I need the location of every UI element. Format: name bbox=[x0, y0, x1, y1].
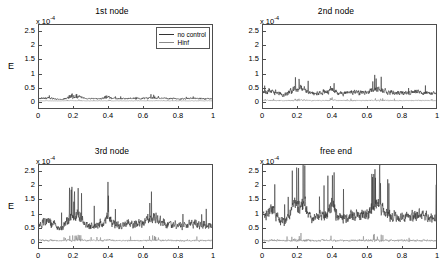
x-tick-mark bbox=[38, 246, 39, 249]
x-tick-label: 0.8 bbox=[167, 112, 189, 120]
x-tick-label: 0.6 bbox=[132, 252, 154, 260]
y-tick-label: 0.5 bbox=[234, 224, 259, 232]
x-tick-label: 0.4 bbox=[321, 252, 343, 260]
series-hinf bbox=[263, 97, 436, 101]
series-no-control bbox=[39, 93, 212, 99]
y-tick-mark bbox=[263, 214, 266, 215]
plot-area bbox=[262, 24, 437, 109]
y-tick-label: 1.5 bbox=[234, 195, 259, 203]
x-tick-mark bbox=[143, 246, 144, 249]
y-tick-mark bbox=[39, 171, 42, 172]
x-tick-mark bbox=[367, 246, 368, 249]
x-tick-label: 0 bbox=[251, 252, 273, 260]
panel-title: 2nd node bbox=[224, 6, 448, 16]
y-tick-label: 2 bbox=[234, 41, 259, 49]
x-tick-label: 0.8 bbox=[391, 112, 413, 120]
series-plot bbox=[263, 25, 436, 108]
series-hinf bbox=[39, 100, 212, 102]
y-tick-mark bbox=[39, 102, 42, 103]
y-tick-mark bbox=[263, 199, 266, 200]
legend-swatch-hinf bbox=[159, 42, 174, 43]
plot-area bbox=[38, 164, 213, 249]
series-no-control bbox=[39, 182, 212, 230]
y-tick-mark bbox=[39, 74, 42, 75]
y-tick-mark bbox=[39, 31, 42, 32]
x-tick-label: 0.2 bbox=[286, 112, 308, 120]
y-tick-label: 2.5 bbox=[234, 167, 259, 175]
y-tick-mark bbox=[39, 242, 42, 243]
y-tick-label: 1 bbox=[10, 70, 35, 78]
x-tick-mark bbox=[332, 246, 333, 249]
x-tick-mark bbox=[297, 106, 298, 109]
x-tick-mark bbox=[436, 246, 437, 249]
y-tick-mark bbox=[39, 45, 42, 46]
x-tick-label: 0.4 bbox=[97, 252, 119, 260]
y-tick-label: 1 bbox=[234, 70, 259, 78]
plot-area bbox=[262, 164, 437, 249]
x-tick-label: 1 bbox=[202, 252, 224, 260]
y-tick-mark bbox=[263, 171, 266, 172]
plot-area: no control Hinf bbox=[38, 24, 213, 109]
x-tick-mark bbox=[402, 106, 403, 109]
y-tick-label: 1 bbox=[10, 210, 35, 218]
x-tick-label: 0 bbox=[27, 112, 49, 120]
y-tick-label: 0.5 bbox=[10, 84, 35, 92]
series-hinf bbox=[39, 235, 212, 242]
legend: no control Hinf bbox=[156, 27, 210, 49]
x-tick-label: 0.4 bbox=[97, 112, 119, 120]
legend-item-hinf: Hinf bbox=[159, 38, 206, 46]
x-tick-label: 0.6 bbox=[132, 112, 154, 120]
x-tick-mark bbox=[108, 106, 109, 109]
y-tick-mark bbox=[263, 185, 266, 186]
panel-title: 3rd node bbox=[0, 146, 224, 156]
x-tick-label: 0.6 bbox=[356, 252, 378, 260]
x-tick-label: 1 bbox=[202, 112, 224, 120]
y-tick-label: 2 bbox=[10, 41, 35, 49]
legend-label-no-control: no control bbox=[177, 31, 206, 38]
series-plot bbox=[39, 165, 212, 248]
y-tick-label: 0.5 bbox=[234, 84, 259, 92]
y-tick-label: 2.5 bbox=[234, 27, 259, 35]
x-tick-label: 1 bbox=[426, 112, 448, 120]
panel-title: free end bbox=[224, 146, 448, 156]
y-tick-label: 0 bbox=[10, 98, 35, 106]
x-tick-mark bbox=[38, 106, 39, 109]
y-tick-mark bbox=[263, 242, 266, 243]
series-hinf bbox=[263, 233, 436, 242]
figure-canvas: 1st node x 10-4 E no control Hinf 2nd no… bbox=[0, 0, 448, 280]
x-tick-mark bbox=[143, 106, 144, 109]
x-tick-mark bbox=[212, 246, 213, 249]
y-tick-label: 2.5 bbox=[10, 27, 35, 35]
series-no-control bbox=[263, 75, 436, 97]
y-tick-label: 1.5 bbox=[234, 55, 259, 63]
y-tick-mark bbox=[39, 199, 42, 200]
x-tick-mark bbox=[332, 106, 333, 109]
y-tick-mark bbox=[263, 59, 266, 60]
x-tick-label: 0.2 bbox=[286, 252, 308, 260]
x-tick-mark bbox=[178, 106, 179, 109]
x-tick-label: 0.6 bbox=[356, 112, 378, 120]
x-tick-mark bbox=[108, 246, 109, 249]
x-tick-label: 0.2 bbox=[62, 252, 84, 260]
y-tick-mark bbox=[263, 102, 266, 103]
y-tick-mark bbox=[39, 59, 42, 60]
x-tick-label: 0 bbox=[27, 252, 49, 260]
x-tick-mark bbox=[212, 106, 213, 109]
x-tick-mark bbox=[178, 246, 179, 249]
y-tick-label: 0.5 bbox=[10, 224, 35, 232]
x-tick-mark bbox=[402, 246, 403, 249]
x-tick-label: 0.8 bbox=[167, 252, 189, 260]
legend-swatch-no-control bbox=[159, 34, 174, 35]
series-plot bbox=[263, 165, 436, 248]
x-tick-mark bbox=[262, 106, 263, 109]
legend-item-no-control: no control bbox=[159, 30, 206, 38]
x-tick-mark bbox=[436, 106, 437, 109]
y-tick-label: 2.5 bbox=[10, 167, 35, 175]
panel-title: 1st node bbox=[0, 6, 224, 16]
series-no-control bbox=[263, 165, 436, 226]
x-tick-label: 0.2 bbox=[62, 112, 84, 120]
y-tick-label: 2 bbox=[10, 181, 35, 189]
x-tick-mark bbox=[73, 246, 74, 249]
y-tick-mark bbox=[39, 228, 42, 229]
x-tick-label: 0 bbox=[251, 112, 273, 120]
